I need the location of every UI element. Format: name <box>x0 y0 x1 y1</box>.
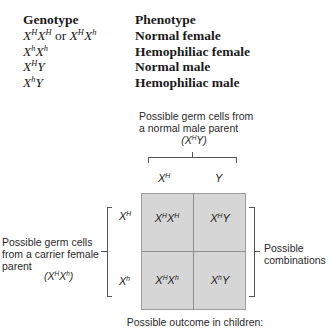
phenotype-cell: Normal female <box>135 28 221 43</box>
punnett-cell-XHXh: XHXh <box>141 274 193 286</box>
punnett-cell-XhY: XhY <box>194 274 246 286</box>
combinations-label: Possible combinations <box>264 242 326 266</box>
female-allele-XH: XH <box>119 210 131 222</box>
female-parent-genotype: (XHXh) <box>44 270 73 282</box>
grid-horizontal-divider <box>141 251 246 252</box>
phenotype-cell: Normal male <box>135 59 210 74</box>
punnett-cell-XHY: XHY <box>194 212 246 224</box>
phenotype-cell: Hemophiliac male <box>135 75 240 90</box>
female-parent-label: Possible germ cells from a carrier femal… <box>2 236 102 272</box>
phenotype-header: Phenotype <box>135 12 196 27</box>
female-parent-label-line1: Possible germ cells <box>2 236 102 248</box>
female-parent-label-line2: from a carrier female <box>2 248 102 260</box>
combinations-label-line1: Possible <box>264 242 326 254</box>
punnett-cell-XHXH: XHXH <box>141 212 193 224</box>
genotype-cell: XhY <box>23 75 43 90</box>
genotype-header: Genotype <box>23 12 79 27</box>
male-parent-label-line2: a normal male parent <box>139 122 259 134</box>
male-parent-label: Possible germ cells from a normal male p… <box>139 110 259 134</box>
male-parent-genotype: (XHY) <box>170 134 218 146</box>
combinations-label-line2: combinations <box>264 254 326 266</box>
outcome-label: Possible outcome in children: <box>120 316 270 328</box>
genotype-cell: XHXH or XHXh <box>23 28 96 43</box>
genotype-cell: XHY <box>23 59 45 74</box>
male-allele-Y: Y <box>215 172 222 184</box>
female-allele-Xh: Xh <box>119 275 130 287</box>
male-allele-XH: XH <box>158 172 170 184</box>
male-parent-label-line1: Possible germ cells from <box>139 110 259 122</box>
genotype-cell: XhXh <box>23 44 48 59</box>
phenotype-cell: Hemophiliac female <box>135 44 250 59</box>
